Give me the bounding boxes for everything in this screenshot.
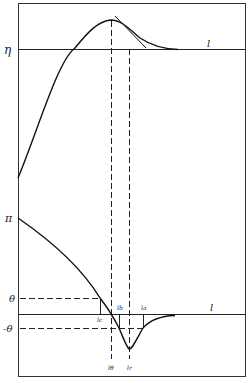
upper-panel: η l: [4, 16, 246, 178]
upper-l-label: l: [207, 38, 210, 49]
frame: [18, 3, 246, 377]
eta-label: η: [4, 43, 12, 57]
pi-label: π: [4, 212, 13, 225]
tangent-line: [115, 16, 146, 48]
lc-label: lc: [97, 316, 103, 323]
la-label: la: [141, 304, 147, 311]
lb-label: lb: [117, 304, 123, 311]
upper-curve: [18, 20, 178, 178]
lower-l-label: l: [210, 302, 213, 313]
lower-panel: π θ -θ l lc lb la lθ lr: [3, 212, 246, 371]
lower-curve: [18, 218, 175, 349]
diagram-figure: η l π θ -θ l lc lb la lθ lr: [0, 0, 248, 383]
theta-label: θ: [9, 293, 15, 304]
ltheta-label: lθ: [108, 364, 114, 371]
neg-theta-label: -θ: [3, 323, 12, 334]
lr-label: lr: [127, 364, 133, 371]
